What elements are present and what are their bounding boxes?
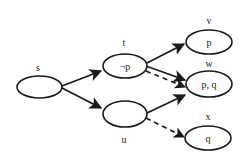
edge-s-to-t (62, 71, 101, 86)
node-s-ellipse (17, 76, 62, 98)
state-diagram: s t ¬p u v p w p, q x (0, 0, 247, 164)
node-t-label: t (123, 37, 126, 48)
node-v-content: p (207, 37, 212, 48)
node-x: x q (185, 111, 231, 150)
node-t: t ¬p (103, 37, 147, 78)
edge-t-to-w-solid (146, 66, 185, 80)
node-w: w p, q (186, 58, 232, 97)
node-u-label: u (122, 134, 127, 145)
edge-u-to-w (147, 95, 185, 113)
node-t-content: ¬p (120, 61, 131, 72)
edge-s-to-u (62, 88, 101, 108)
node-v: v p (186, 15, 232, 54)
edge-t-to-v (147, 44, 184, 63)
node-x-content: q (206, 133, 211, 144)
node-u-ellipse (103, 101, 147, 127)
node-s: s (17, 62, 62, 98)
node-s-label: s (36, 62, 40, 73)
node-v-label: v (207, 15, 212, 26)
node-w-label: w (205, 58, 213, 69)
node-w-content: p, q (202, 79, 217, 90)
edge-u-to-x-dashed (146, 118, 184, 137)
node-u: u (103, 101, 147, 145)
node-x-label: x (206, 111, 211, 122)
